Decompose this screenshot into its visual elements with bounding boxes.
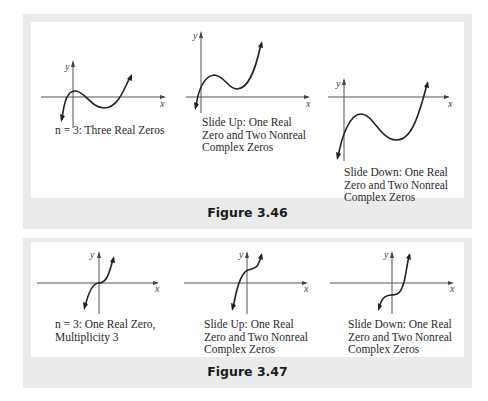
- caption-triple-slide-down: Slide Down: One Real Zero and Two Nonrea…: [348, 318, 452, 356]
- x-axis-label: x: [449, 283, 455, 294]
- y-axis-label: y: [383, 249, 389, 260]
